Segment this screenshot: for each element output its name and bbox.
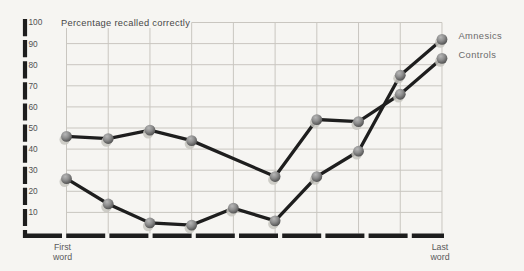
marker-controls-8 — [353, 116, 364, 127]
marker-amnesics-7 — [311, 171, 322, 182]
marker-amnesics-8 — [353, 146, 364, 157]
y-tick-label-70: 70 — [29, 81, 39, 91]
x-label-first-word-line1: First — [54, 242, 72, 252]
marker-amnesics-6 — [270, 215, 281, 226]
y-tick-label-90: 90 — [29, 39, 39, 49]
marker-amnesics-9 — [395, 70, 406, 81]
marker-amnesics-10 — [437, 34, 448, 45]
marker-controls-1 — [61, 131, 72, 142]
y-tick-label-20: 20 — [29, 186, 39, 196]
legend-label-controls: Controls — [459, 50, 497, 60]
marker-controls-2 — [103, 133, 114, 144]
marker-amnesics-2 — [103, 199, 114, 210]
chart-title: Percentage recalled correctly — [61, 18, 190, 28]
marker-amnesics-5 — [228, 203, 239, 214]
marker-controls-7 — [311, 114, 322, 125]
x-label-first-word-line2: word — [52, 252, 72, 262]
x-label-last-word-line1: Last — [432, 242, 449, 252]
marker-controls-4 — [186, 135, 197, 146]
marker-amnesics-1 — [61, 173, 72, 184]
marker-amnesics-4 — [186, 220, 197, 231]
marker-controls-3 — [145, 125, 156, 136]
y-tick-label-40: 40 — [29, 144, 39, 154]
serial-position-figure: 100908070605040302010Percentage recalled… — [0, 0, 524, 271]
marker-controls-10 — [437, 53, 448, 64]
marker-amnesics-3 — [145, 218, 156, 229]
recall-line-chart: 100908070605040302010Percentage recalled… — [0, 0, 524, 271]
x-label-last-word-line2: word — [429, 252, 449, 262]
y-tick-label-30: 30 — [29, 165, 39, 175]
legend-label-amnesics: Amnesics — [459, 31, 503, 41]
y-tick-label-10: 10 — [29, 207, 39, 217]
y-tick-label-60: 60 — [29, 102, 39, 112]
y-tick-label-100: 100 — [29, 17, 43, 27]
marker-controls-9 — [395, 89, 406, 100]
y-tick-label-50: 50 — [29, 123, 39, 133]
marker-controls-6 — [270, 171, 281, 182]
y-tick-label-80: 80 — [29, 60, 39, 70]
